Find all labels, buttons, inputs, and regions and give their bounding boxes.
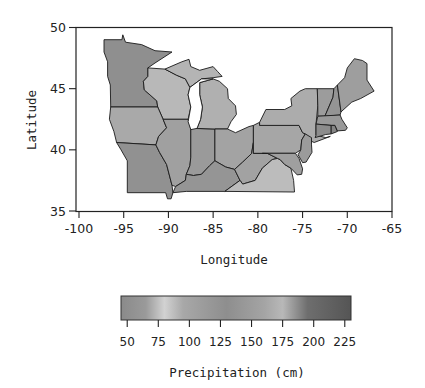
precipitation-map-figure: -100-95-90-85-80-75-70-65 50454035 Longi… [0, 0, 425, 388]
y-axis-title: Latitude [24, 90, 39, 150]
y-tick-label: 45 [50, 81, 66, 96]
x-tick-label: -75 [292, 221, 312, 236]
colorbar-tick-label: 100 [178, 335, 201, 349]
colorbar-tick-label: 50 [120, 335, 135, 349]
colorbar-ticks: 5075100125150175200225 [120, 320, 357, 349]
colorbar-tick-label: 125 [209, 335, 232, 349]
y-tick-label: 50 [50, 20, 66, 35]
x-tick-label: -90 [158, 221, 178, 236]
state-pennsylvania [253, 122, 305, 153]
x-tick-label: -65 [382, 221, 402, 236]
colorbar-tick-label: 225 [333, 335, 356, 349]
y-axis: 50454035 [50, 20, 76, 219]
colorbar-tick-label: 200 [302, 335, 325, 349]
colorbar-tick-label: 150 [240, 335, 263, 349]
x-tick-label: -100 [65, 221, 93, 236]
colorbar: 5075100125150175200225 [120, 296, 357, 349]
x-tick-label: -70 [337, 221, 357, 236]
x-axis: -100-95-90-85-80-75-70-65 [65, 212, 402, 237]
colorbar-ramp [121, 296, 351, 320]
y-tick-label: 35 [50, 204, 66, 219]
x-axis-title: Longitude [200, 252, 268, 267]
x-tick-label: -95 [114, 221, 134, 236]
colorbar-title: Precipitation (cm) [169, 365, 304, 380]
x-tick-label: -85 [203, 221, 223, 236]
colorbar-tick-label: 175 [271, 335, 294, 349]
y-tick-label: 40 [50, 142, 66, 157]
map-plot-area [76, 28, 392, 212]
colorbar-tick-label: 75 [151, 335, 166, 349]
x-tick-label: -80 [248, 221, 268, 236]
